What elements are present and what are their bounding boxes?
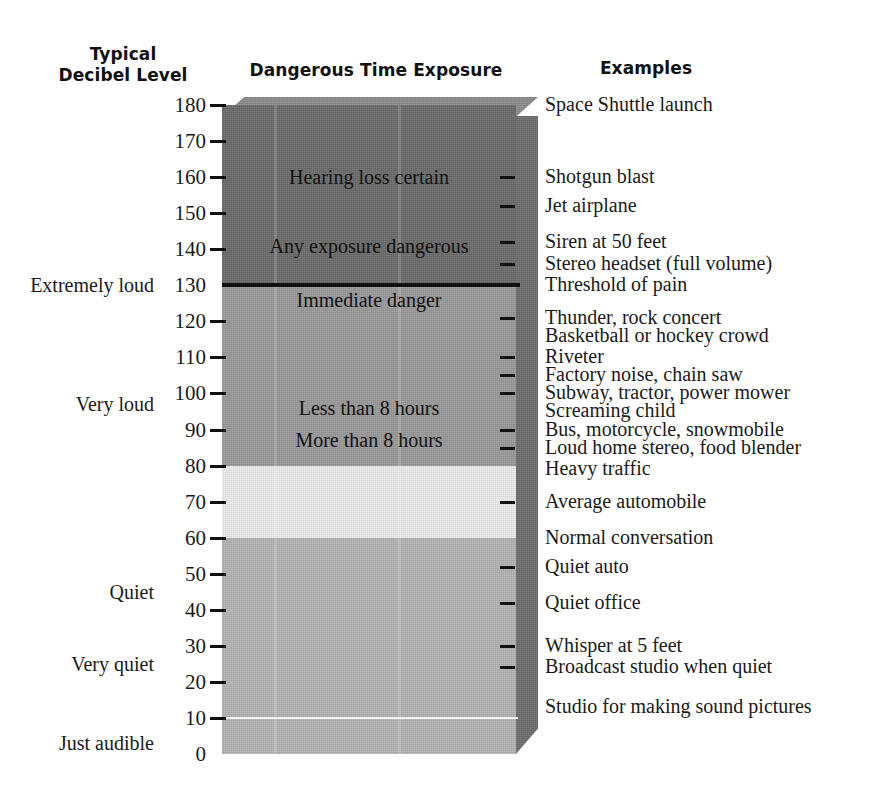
axis-tick-label: 30 xyxy=(154,636,206,657)
example-label: Siren at 50 feet xyxy=(545,231,667,251)
axis-tick-mark xyxy=(210,609,226,612)
loudness-category: Quiet xyxy=(0,582,154,602)
loudness-category: Very quiet xyxy=(0,654,154,674)
axis-tick-label: 110 xyxy=(154,347,206,368)
example-label: Studio for making sound pictures xyxy=(545,696,812,716)
axis-tick-label: 140 xyxy=(154,239,206,260)
example-tick-mark xyxy=(500,566,515,569)
example-label: Whisper at 5 feet xyxy=(545,635,682,655)
example-tick-mark xyxy=(500,205,515,208)
threshold-rule-130db xyxy=(222,283,520,287)
exposure-label: Less than 8 hours xyxy=(222,398,516,418)
axis-tick-mark xyxy=(210,465,226,468)
example-tick-mark xyxy=(500,392,515,395)
axis-tick-mark xyxy=(210,681,226,684)
example-tick-mark xyxy=(500,317,515,320)
example-label: Shotgun blast xyxy=(545,166,654,186)
axis-tick-label: 160 xyxy=(154,167,206,188)
axis-tick-mark xyxy=(210,392,226,395)
example-label: Heavy traffic xyxy=(545,458,651,478)
axis-tick-mark xyxy=(210,140,226,143)
example-tick-mark xyxy=(500,666,515,669)
axis-tick-label: 60 xyxy=(154,528,206,549)
example-label: Basketball or hockey crowd xyxy=(545,325,769,345)
example-label: Space Shuttle launch xyxy=(545,94,713,114)
band-extreme xyxy=(222,105,516,285)
example-label: Normal conversation xyxy=(545,527,713,547)
loudness-category: Just audible xyxy=(0,733,154,753)
axis-tick-label: 0 xyxy=(154,744,206,765)
exposure-label: Immediate danger xyxy=(222,290,516,310)
example-label: Threshold of pain xyxy=(545,274,687,294)
axis-tick-label: 180 xyxy=(154,95,206,116)
exposure-label: More than 8 hours xyxy=(222,430,516,450)
axis-tick-label: 10 xyxy=(154,708,206,729)
example-tick-mark xyxy=(500,501,515,504)
axis-tick-label: 170 xyxy=(154,131,206,152)
example-label: Loud home stereo, food blender xyxy=(545,437,801,457)
bar-side-face xyxy=(516,116,538,754)
axis-tick-mark xyxy=(210,212,226,215)
example-label: Average automobile xyxy=(545,491,706,511)
example-label: Stereo headset (full volume) xyxy=(545,253,772,273)
axis-tick-label: 80 xyxy=(154,456,206,477)
axis-tick-label: 130 xyxy=(154,275,206,296)
axis-tick-label: 70 xyxy=(154,492,206,513)
example-tick-mark xyxy=(500,602,515,605)
threshold-rule-10db xyxy=(222,717,518,719)
exposure-label: Hearing loss certain xyxy=(222,167,516,187)
axis-tick-label: 20 xyxy=(154,672,206,693)
axis-tick-mark xyxy=(210,573,226,576)
axis-tick-label: 40 xyxy=(154,600,206,621)
axis-tick-label: 100 xyxy=(154,383,206,404)
axis-tick-label: 50 xyxy=(154,564,206,585)
axis-tick-mark xyxy=(210,645,226,648)
example-tick-mark xyxy=(500,645,515,648)
axis-tick-mark xyxy=(210,717,226,720)
axis-tick-label: 90 xyxy=(154,420,206,441)
example-label: Jet airplane xyxy=(545,195,637,215)
axis-tick-mark xyxy=(210,356,226,359)
decibel-level-chart: 0102030405060708090100110120130140150160… xyxy=(0,0,892,802)
axis-tick-label: 120 xyxy=(154,311,206,332)
axis-tick-label: 150 xyxy=(154,203,206,224)
example-label: Quiet auto xyxy=(545,556,629,576)
axis-tick-mark xyxy=(210,537,226,540)
example-label: Broadcast studio when quiet xyxy=(545,656,772,676)
loudness-category: Extremely loud xyxy=(0,275,154,295)
example-tick-mark xyxy=(500,263,515,266)
axis-tick-mark xyxy=(210,104,226,107)
axis-tick-mark xyxy=(210,320,226,323)
loudness-category: Very loud xyxy=(0,394,154,414)
example-tick-mark xyxy=(500,374,515,377)
band-moderate xyxy=(222,466,516,538)
example-label: Quiet office xyxy=(545,592,641,612)
band-quiet xyxy=(222,538,516,754)
axis-tick-mark xyxy=(210,501,226,504)
example-tick-mark xyxy=(500,356,515,359)
exposure-label: Any exposure dangerous xyxy=(222,236,516,256)
